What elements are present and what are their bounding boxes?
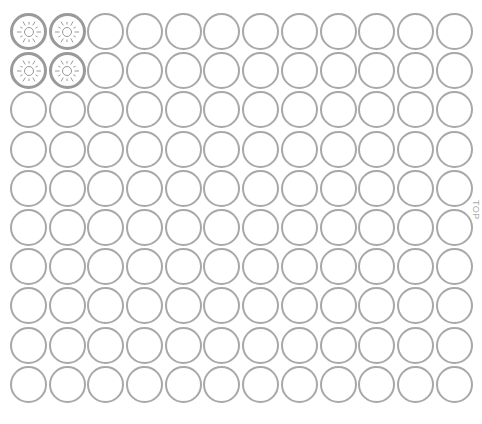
board-cell[interactable]	[358, 248, 395, 285]
board-cell[interactable]	[10, 91, 47, 128]
board-cell[interactable]	[397, 52, 434, 89]
board-cell[interactable]	[320, 52, 357, 89]
board-cell[interactable]	[49, 248, 86, 285]
board-cell[interactable]	[397, 327, 434, 364]
board-cell[interactable]	[436, 327, 473, 364]
board-cell[interactable]	[49, 366, 86, 403]
board-cell[interactable]	[49, 209, 86, 246]
board-cell[interactable]	[242, 13, 279, 50]
board-cell[interactable]	[358, 209, 395, 246]
board-cell[interactable]	[397, 287, 434, 324]
board-cell[interactable]	[320, 327, 357, 364]
board-cell[interactable]	[203, 52, 240, 89]
board-cell[interactable]	[165, 209, 202, 246]
board-cell[interactable]	[49, 287, 86, 324]
board-cell[interactable]	[87, 366, 124, 403]
board-cell[interactable]	[436, 170, 473, 207]
board-cell[interactable]	[203, 131, 240, 168]
board-cell[interactable]	[126, 13, 163, 50]
board-cell[interactable]	[242, 52, 279, 89]
board-cell[interactable]	[397, 209, 434, 246]
board-cell[interactable]	[165, 13, 202, 50]
board-cell[interactable]	[126, 287, 163, 324]
board-cell[interactable]	[242, 248, 279, 285]
board-cell[interactable]	[126, 170, 163, 207]
board-cell-lit[interactable]	[49, 52, 86, 89]
board-cell[interactable]	[242, 131, 279, 168]
board-cell[interactable]	[281, 13, 318, 50]
board-cell[interactable]	[126, 366, 163, 403]
board-cell[interactable]	[397, 170, 434, 207]
board-cell[interactable]	[242, 170, 279, 207]
board-cell[interactable]	[358, 91, 395, 128]
board-cell[interactable]	[358, 287, 395, 324]
board-cell[interactable]	[281, 209, 318, 246]
board-cell[interactable]	[87, 52, 124, 89]
board-cell[interactable]	[320, 91, 357, 128]
board-cell[interactable]	[203, 327, 240, 364]
board-cell[interactable]	[281, 52, 318, 89]
board-cell[interactable]	[165, 91, 202, 128]
board-cell[interactable]	[320, 13, 357, 50]
board-cell[interactable]	[49, 170, 86, 207]
board-cell[interactable]	[320, 209, 357, 246]
board-cell[interactable]	[165, 287, 202, 324]
board-cell[interactable]	[203, 248, 240, 285]
board-cell[interactable]	[87, 131, 124, 168]
board-cell[interactable]	[165, 52, 202, 89]
board-cell[interactable]	[165, 327, 202, 364]
board-cell[interactable]	[10, 131, 47, 168]
board-cell[interactable]	[49, 91, 86, 128]
board-cell[interactable]	[165, 366, 202, 403]
board-cell[interactable]	[281, 91, 318, 128]
board-cell[interactable]	[397, 366, 434, 403]
board-cell[interactable]	[436, 248, 473, 285]
board-cell[interactable]	[281, 248, 318, 285]
board-cell[interactable]	[436, 13, 473, 50]
board-cell[interactable]	[281, 131, 318, 168]
board-cell[interactable]	[203, 366, 240, 403]
board-cell[interactable]	[242, 327, 279, 364]
board-cell[interactable]	[87, 209, 124, 246]
board-cell[interactable]	[358, 170, 395, 207]
board-cell[interactable]	[358, 327, 395, 364]
board-cell[interactable]	[320, 366, 357, 403]
board-cell[interactable]	[87, 13, 124, 50]
board-cell-lit[interactable]	[10, 13, 47, 50]
board-cell[interactable]	[358, 366, 395, 403]
board-cell[interactable]	[436, 209, 473, 246]
board-cell[interactable]	[87, 170, 124, 207]
board-cell[interactable]	[87, 327, 124, 364]
board-cell[interactable]	[242, 287, 279, 324]
board-cell[interactable]	[436, 131, 473, 168]
board-cell[interactable]	[397, 13, 434, 50]
board-cell[interactable]	[126, 327, 163, 364]
board-cell[interactable]	[165, 248, 202, 285]
board-cell[interactable]	[49, 131, 86, 168]
board-cell[interactable]	[126, 131, 163, 168]
board-cell[interactable]	[320, 248, 357, 285]
board-cell-lit[interactable]	[49, 13, 86, 50]
board-cell-lit[interactable]	[10, 52, 47, 89]
board-cell[interactable]	[397, 91, 434, 128]
board-cell[interactable]	[358, 52, 395, 89]
board-cell[interactable]	[203, 287, 240, 324]
board-cell[interactable]	[126, 91, 163, 128]
board-cell[interactable]	[320, 287, 357, 324]
board-cell[interactable]	[126, 52, 163, 89]
board-cell[interactable]	[281, 366, 318, 403]
board-cell[interactable]	[165, 131, 202, 168]
board-cell[interactable]	[87, 287, 124, 324]
board-cell[interactable]	[397, 131, 434, 168]
board-cell[interactable]	[49, 327, 86, 364]
board-cell[interactable]	[165, 170, 202, 207]
board-cell[interactable]	[397, 248, 434, 285]
board-cell[interactable]	[242, 209, 279, 246]
board-cell[interactable]	[242, 91, 279, 128]
board-cell[interactable]	[203, 209, 240, 246]
board-cell[interactable]	[10, 248, 47, 285]
board-cell[interactable]	[203, 13, 240, 50]
board-cell[interactable]	[436, 287, 473, 324]
board-cell[interactable]	[320, 131, 357, 168]
board-cell[interactable]	[126, 209, 163, 246]
